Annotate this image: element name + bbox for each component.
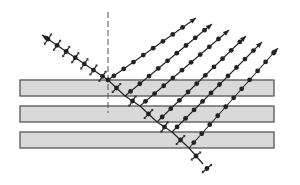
reflected-ray-5-dot-marker bbox=[192, 108, 197, 113]
reflected-ray-3-dot-marker bbox=[207, 44, 212, 49]
glass-plate-3 bbox=[20, 132, 274, 148]
reflected-ray-6-dot-marker bbox=[199, 131, 204, 136]
transmitted-ray-dot-marker bbox=[162, 125, 167, 130]
reflected-ray-arrowhead-icon bbox=[190, 18, 196, 23]
transmitted-ray-dot-marker bbox=[114, 86, 119, 91]
reflected-ray-6-dot-marker bbox=[271, 51, 276, 56]
reflected-ray-4-dot-marker bbox=[203, 73, 208, 78]
incident-ray-dot-marker bbox=[82, 61, 87, 66]
reflected-ray-5-dot-marker bbox=[200, 99, 205, 104]
reflected-ray-6-dot-marker bbox=[247, 77, 252, 82]
reflected-ray-3-dot-marker bbox=[216, 37, 221, 42]
reflected-ray-4-dot-marker bbox=[186, 90, 191, 95]
reflected-ray-6-dot-marker bbox=[207, 122, 212, 127]
reflected-ray-1-dot-marker bbox=[180, 25, 185, 30]
reflected-ray-2-dot-marker bbox=[193, 35, 198, 40]
reflected-ray-2-dot-marker bbox=[147, 74, 152, 79]
reflected-ray-2-dot-marker bbox=[165, 58, 170, 63]
reflected-ray-2-dot-marker bbox=[156, 66, 161, 71]
diagram-canvas bbox=[0, 0, 300, 185]
reflected-ray-4-dot-marker bbox=[194, 81, 199, 86]
transmitted-ray-dot-marker bbox=[178, 138, 183, 143]
reflected-ray-1-dot-marker bbox=[111, 73, 116, 78]
reflected-ray-3-dot-marker bbox=[180, 68, 185, 73]
incident-ray-dot-marker bbox=[100, 74, 105, 79]
reflected-ray-6-dot-marker bbox=[191, 140, 196, 145]
reflected-ray-1-dot-marker bbox=[131, 60, 136, 65]
reflected-ray-4-dot-marker bbox=[160, 115, 165, 120]
pile-of-plates-diagram bbox=[0, 0, 300, 185]
reflected-ray-5-dot-marker bbox=[217, 82, 222, 87]
reflected-ray-6-dot-marker bbox=[255, 69, 260, 74]
reflected-ray-5-dot-marker bbox=[226, 74, 231, 79]
reflected-ray-6-dot-marker bbox=[239, 86, 244, 91]
reflected-ray-1-dot-marker bbox=[151, 46, 156, 51]
reflected-ray-6-dot-marker bbox=[231, 95, 236, 100]
reflected-ray-1-dot-marker bbox=[161, 39, 166, 44]
reflected-ray-2-dot-marker bbox=[174, 51, 179, 56]
reflected-ray-3-dot-marker bbox=[189, 60, 194, 65]
reflected-ray-6-dot-marker bbox=[223, 104, 228, 109]
reflected-ray-4-dot-marker bbox=[220, 56, 225, 61]
reflected-ray-4-dot-marker bbox=[168, 106, 173, 111]
reflected-ray-3-dot-marker bbox=[198, 52, 203, 57]
reflected-ray-4-dot-marker bbox=[229, 48, 234, 53]
reflected-ray-5-dot-marker bbox=[243, 57, 248, 62]
reflected-ray-2-dot-marker bbox=[184, 43, 189, 48]
reflected-ray-6-dot-marker bbox=[263, 60, 268, 65]
incident-ray-dot-marker bbox=[55, 43, 60, 48]
reflected-ray-4-dot-marker bbox=[237, 40, 242, 45]
glass-plate-1 bbox=[20, 80, 274, 96]
reflected-ray-1-dot-marker bbox=[141, 53, 146, 58]
reflected-ray-2-dot-marker bbox=[128, 89, 133, 94]
transmitted-ray-dot-marker bbox=[146, 112, 151, 117]
reflected-ray-2-dot-marker bbox=[202, 28, 207, 33]
reflected-ray-6-dot-marker bbox=[215, 113, 220, 118]
reflected-ray-3-dot-marker bbox=[143, 99, 148, 104]
reflected-ray-5-dot-marker bbox=[183, 116, 188, 121]
transmitted-ray-dot-marker bbox=[205, 166, 210, 171]
reflected-ray-3-dot-marker bbox=[152, 91, 157, 96]
reflected-ray-2-dot-marker bbox=[137, 81, 142, 86]
incidence-point bbox=[106, 78, 111, 83]
incident-ray-dot-marker bbox=[73, 55, 78, 60]
transmitted-ray-dot-marker bbox=[194, 154, 199, 159]
reflected-ray-5-dot-marker bbox=[234, 65, 239, 70]
incident-ray-dot-marker bbox=[91, 68, 96, 73]
reflected-ray-5-dot-marker bbox=[251, 48, 256, 53]
reflected-ray-4-dot-marker bbox=[212, 65, 217, 70]
reflected-ray-5-dot-marker bbox=[209, 91, 214, 96]
reflected-ray-1-dot-marker bbox=[170, 32, 175, 37]
incident-ray-dot-marker bbox=[64, 49, 69, 54]
reflected-ray-4-dot-marker bbox=[177, 98, 182, 103]
transmitted-ray-dot-marker bbox=[130, 99, 135, 104]
reflected-ray-5-dot-marker bbox=[175, 125, 180, 130]
reflected-ray-3-dot-marker bbox=[161, 83, 166, 88]
incident-ray-dot-marker bbox=[46, 37, 51, 42]
reflected-ray-1-dot-marker bbox=[121, 67, 126, 72]
reflected-ray-3-dot-marker bbox=[170, 76, 175, 81]
